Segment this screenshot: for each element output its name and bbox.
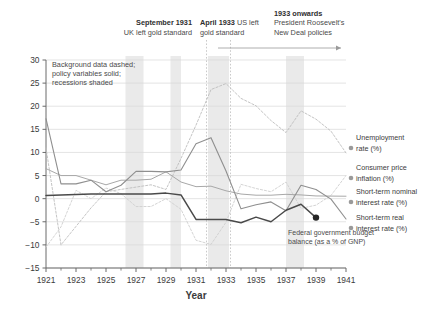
y-tick-label-10: 10 bbox=[30, 147, 40, 157]
recession-band-3 bbox=[286, 56, 304, 268]
annotation-april-1933-title-rest: US left bbox=[235, 18, 259, 27]
plot-note-line-2: policy variables solid; bbox=[52, 69, 121, 78]
y-tick-label-30: 30 bbox=[30, 55, 40, 65]
legend-label-2-line-2: interest rate (%) bbox=[356, 198, 407, 207]
annotation-september-1931-title: September 1931 bbox=[136, 18, 192, 27]
y-tick-label-15: 15 bbox=[30, 124, 40, 134]
legend-label-2-line-1: Short-term nominal bbox=[356, 187, 418, 196]
annotation-september-1931-detail: UK left gold standard bbox=[124, 28, 192, 37]
annotation-new-deal-line-3: New Deal policies bbox=[274, 28, 332, 37]
annotation-april-1933-title-group: April 1933 US left bbox=[200, 18, 259, 27]
x-tick-label-1921: 1921 bbox=[37, 275, 56, 285]
y-tick-label-25: 25 bbox=[30, 78, 40, 88]
legend-label-1-line-2: inflation (%) bbox=[356, 174, 394, 183]
y-tick-label-20: 20 bbox=[30, 101, 40, 111]
y-tick-label-0: 0 bbox=[35, 194, 40, 204]
x-axis-title: Year bbox=[185, 290, 206, 301]
recession-band-0 bbox=[126, 56, 144, 268]
y-tick-label--5: −5 bbox=[30, 217, 40, 227]
legend-label-0-line-1: Unemployment bbox=[356, 133, 404, 142]
annotation-april-1933-detail: gold standard bbox=[200, 28, 244, 37]
plot-note-line-3: recessions shaded bbox=[52, 78, 113, 87]
annotation-april-1933-title: April 1933 bbox=[200, 18, 235, 27]
legend-label-1-line-1: Consumer price bbox=[356, 163, 407, 172]
annotation-new-deal-line-2: President Roosevelt's bbox=[274, 18, 345, 27]
legend-label-3-line-1: Short-term real bbox=[356, 213, 404, 222]
legend-marker-0 bbox=[349, 146, 354, 151]
budget-balance-callout-line-1: Federal government budget bbox=[288, 229, 374, 237]
x-tick-label-1935: 1935 bbox=[247, 275, 266, 285]
chart-root: 302520151050−5−10−15 1921192319251927192… bbox=[0, 0, 435, 324]
x-tick-label-1931: 1931 bbox=[187, 275, 206, 285]
y-tick-label--15: −15 bbox=[25, 263, 40, 273]
budget-balance-callout-line-2: balance (as a % of GNP) bbox=[288, 238, 365, 246]
y-tick-label--10: −10 bbox=[25, 240, 40, 250]
y-tick-label-5: 5 bbox=[35, 171, 40, 181]
recession-band-2 bbox=[208, 56, 229, 268]
budget-balance-endpoint-marker bbox=[313, 214, 319, 220]
x-tick-label-1937: 1937 bbox=[277, 275, 296, 285]
plot-note-line-1: Background data dashed; bbox=[52, 60, 135, 69]
x-tick-label-1941: 1941 bbox=[337, 275, 356, 285]
legend-marker-1 bbox=[349, 176, 354, 181]
x-tick-label-1923: 1923 bbox=[67, 275, 86, 285]
x-tick-label-1927: 1927 bbox=[127, 275, 146, 285]
legend-marker-2 bbox=[349, 200, 354, 205]
x-tick-label-1929: 1929 bbox=[157, 275, 176, 285]
legend-label-0-line-2: rate (%) bbox=[356, 144, 382, 153]
macroeconomic-timeseries-chart: 302520151050−5−10−15 1921192319251927192… bbox=[0, 0, 435, 324]
budget-balance-callout: Federal government budget balance (as a … bbox=[288, 229, 374, 246]
x-tick-label-1939: 1939 bbox=[307, 275, 326, 285]
x-tick-label-1933: 1933 bbox=[217, 275, 236, 285]
annotation-new-deal-title: 1933 onwards bbox=[274, 9, 322, 18]
x-tick-label-1925: 1925 bbox=[97, 275, 116, 285]
